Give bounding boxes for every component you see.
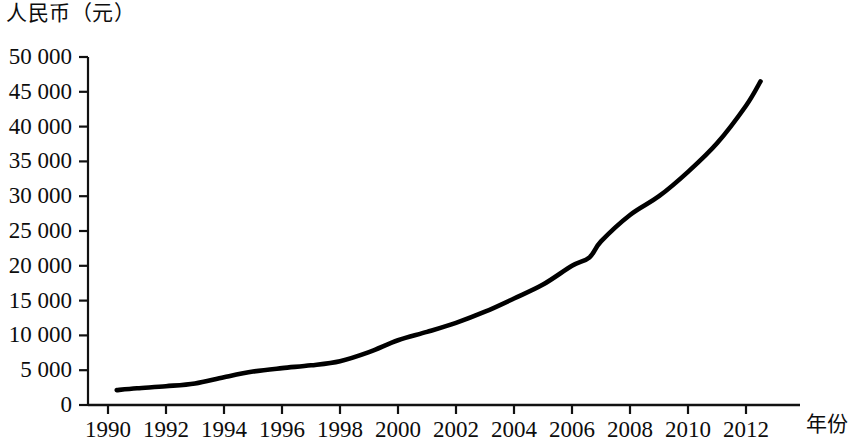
data-series-line bbox=[117, 81, 761, 390]
plot-area bbox=[0, 0, 851, 441]
chart-figure: 人民币（元） 年份 05 00010 00015 00020 00025 000… bbox=[0, 0, 851, 441]
axes-group bbox=[79, 57, 800, 414]
